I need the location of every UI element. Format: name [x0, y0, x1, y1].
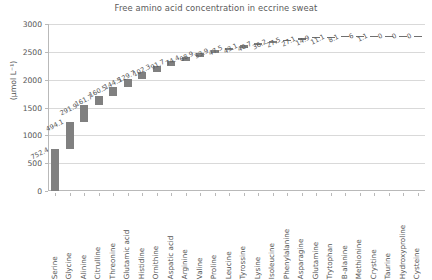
x-axis-category-label: B-alanine — [341, 245, 348, 279]
x-tick-mark — [273, 193, 274, 196]
x-tick-mark — [128, 193, 129, 196]
x-tick-mark — [302, 193, 303, 196]
y-tick-label: 1000 — [23, 131, 42, 140]
x-axis-category-label: Trytophan — [326, 243, 333, 279]
gridline — [48, 24, 425, 25]
bar — [80, 105, 88, 121]
x-tick-mark — [374, 193, 375, 196]
x-tick-mark — [55, 193, 56, 196]
gridline — [48, 108, 425, 109]
plot-area: 752.4494.1291.9161.7160.5144.5129.7102.3… — [48, 24, 425, 191]
x-axis-category-label: Tyrossine — [239, 246, 246, 279]
bar-value-label: 0 — [406, 32, 413, 41]
bar-value-label: 1.1 — [357, 32, 370, 44]
x-tick-mark — [331, 193, 332, 196]
x-axis-category-label: Leucine — [225, 251, 232, 279]
x-axis-category-label: Aspatic acid — [167, 235, 174, 279]
y-tick-label: 1500 — [23, 103, 42, 112]
x-tick-mark — [258, 193, 259, 196]
x-axis-category-label: Serine — [51, 256, 58, 279]
x-axis-category-label: Cysteine — [413, 248, 420, 279]
x-axis-category-label: Valine — [196, 257, 203, 279]
x-tick-mark — [186, 193, 187, 196]
bar — [66, 122, 74, 150]
x-axis-category-label: Isoleucine — [268, 243, 275, 279]
y-axis-title: (µmol L⁻¹) — [9, 46, 18, 116]
bar-value-label: 0 — [377, 32, 384, 41]
bar — [414, 36, 422, 37]
bar-value-label: 8.1 — [328, 32, 341, 44]
x-axis-category-label: Asparagine — [297, 238, 304, 279]
x-tick-mark — [360, 193, 361, 196]
x-tick-mark — [287, 193, 288, 196]
x-tick-mark — [171, 193, 172, 196]
x-axis-category-label: Glycine — [65, 252, 72, 279]
x-tick-mark — [229, 193, 230, 196]
x-axis-category-label: Phenylalanine — [283, 229, 290, 279]
x-axis-category-label: Threonine — [109, 243, 116, 279]
bar — [341, 36, 349, 37]
x-axis-category-label: Histidine — [138, 248, 145, 280]
x-axis-labels: SerineGlycineAlinineCitrullineThreonineG… — [48, 193, 425, 279]
x-axis-category-label: Alinine — [80, 255, 87, 279]
x-tick-mark — [142, 193, 143, 196]
x-axis-category-label: Hydroxyproline — [399, 225, 406, 279]
gridline — [48, 80, 425, 81]
x-axis-category-label: Arginine — [181, 249, 188, 279]
x-axis-category-label: Lysine — [254, 257, 261, 279]
x-tick-mark — [345, 193, 346, 196]
x-tick-mark — [316, 193, 317, 196]
x-axis-category-label: Crystine — [370, 249, 377, 279]
x-axis-category-label: Glutamic acid — [123, 230, 130, 280]
bar-value-label: 47.5 — [208, 44, 225, 58]
x-tick-mark — [113, 193, 114, 196]
bar-value-label: 0 — [391, 32, 398, 41]
x-tick-mark — [389, 193, 390, 196]
gridline — [48, 52, 425, 53]
bar-value-label: 6 — [348, 32, 355, 41]
y-tick-label: 0 — [37, 187, 42, 196]
x-axis-category-label: Glutamine — [312, 242, 319, 279]
x-tick-mark — [70, 193, 71, 196]
y-tick-label: 2000 — [23, 75, 42, 84]
bar — [95, 96, 103, 105]
y-axis-line — [48, 24, 49, 191]
x-axis-category-label: Proline — [210, 255, 217, 279]
x-tick-mark — [403, 193, 404, 196]
x-tick-mark — [200, 193, 201, 196]
x-tick-mark — [99, 193, 100, 196]
x-axis-category-label: Citrulline — [94, 247, 101, 279]
x-tick-mark — [244, 193, 245, 196]
gridline — [48, 135, 425, 136]
x-axis-line — [48, 190, 425, 191]
x-tick-mark — [418, 193, 419, 196]
x-axis-category-label: Ornithine — [152, 246, 159, 279]
y-tick-label: 2500 — [23, 47, 42, 56]
x-axis-category-label: Taurine — [384, 253, 391, 279]
gridline — [48, 163, 425, 164]
x-tick-mark — [157, 193, 158, 196]
y-tick-mark — [45, 191, 48, 192]
chart-root: Free amino acid concentration in eccrine… — [0, 0, 432, 280]
chart-title: Free amino acid concentration in eccrine… — [0, 3, 432, 13]
x-axis-category-label: Methionine — [355, 239, 362, 279]
x-tick-mark — [215, 193, 216, 196]
bar — [51, 149, 59, 191]
y-tick-label: 3000 — [23, 20, 42, 29]
bar-value-label: 11.1 — [309, 33, 326, 47]
bar-value-label: 27.5 — [266, 36, 283, 50]
y-axis: (µmol L⁻¹) 050010001500200025003000 — [0, 0, 46, 280]
x-tick-mark — [84, 193, 85, 196]
